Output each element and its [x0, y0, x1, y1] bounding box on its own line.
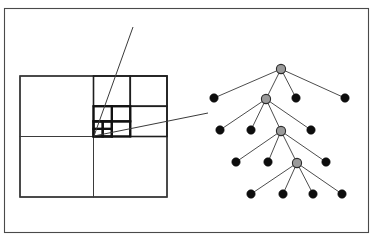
tree-node-l3-3	[292, 158, 301, 167]
tree-node-root	[276, 64, 285, 73]
tree-leaf-l3-2	[264, 158, 272, 166]
tree-leaf-l1-1	[210, 94, 218, 102]
tree-leaf-l2-4	[307, 126, 315, 134]
tree-leaf-l3-1	[232, 158, 240, 166]
tree-node-l2-3	[276, 126, 285, 135]
tree-leaf-l4-2	[279, 190, 287, 198]
figure-container	[0, 0, 376, 242]
tree-node-l1-2	[261, 94, 270, 103]
tree-leaf-l1-3	[292, 94, 300, 102]
tree-leaf-l4-3	[309, 190, 317, 198]
tree-leaf-l2-1	[216, 126, 224, 134]
tree-leaf-l3-4	[322, 158, 330, 166]
tree-leaf-l1-4	[341, 94, 349, 102]
quadtree-figure	[0, 0, 376, 242]
tree-leaf-l2-2	[247, 126, 255, 134]
tree-leaf-l4-4	[338, 190, 346, 198]
tree-leaf-l4-1	[247, 190, 255, 198]
figure-border	[5, 9, 369, 233]
